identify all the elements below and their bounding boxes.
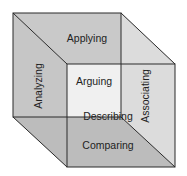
label-applying: Applying (67, 32, 107, 44)
label-describing: Describing (83, 110, 133, 122)
label-comparing: Comparing (82, 139, 134, 151)
cube-diagram: Applying Analyzing Associating Arguing D… (0, 0, 187, 176)
label-associating: Associating (139, 69, 151, 123)
label-analyzing: Analyzing (32, 63, 44, 109)
label-arguing: Arguing (76, 75, 112, 87)
